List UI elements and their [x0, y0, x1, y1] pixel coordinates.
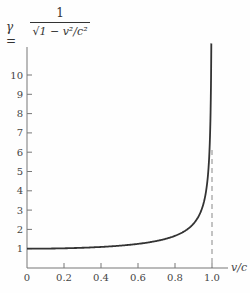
y-tick-label: 8 — [17, 108, 23, 119]
x-tick-label: 0 — [24, 272, 30, 283]
gamma-curve — [27, 43, 211, 248]
y-tick-label: 3 — [17, 205, 23, 216]
y-tick-label: 2 — [17, 224, 23, 235]
x-ticks: 00.20.40.60.81.0 — [24, 263, 220, 283]
x-tick-label: 0.2 — [56, 272, 72, 283]
gamma-chart: 12345678910 00.20.40.60.81.0 v/c — [0, 0, 250, 293]
x-axis-label: v/c — [231, 261, 247, 274]
axes — [27, 47, 228, 268]
x-tick-label: 0.6 — [130, 272, 146, 283]
y-tick-label: 4 — [17, 185, 23, 196]
y-tick-label: 5 — [17, 166, 23, 177]
y-ticks: 12345678910 — [10, 70, 32, 255]
x-tick-label: 1.0 — [204, 272, 220, 283]
y-tick-label: 10 — [10, 70, 23, 81]
y-tick-label: 6 — [17, 147, 23, 158]
x-tick-label: 0.4 — [93, 272, 109, 283]
y-tick-label: 9 — [17, 89, 23, 100]
x-tick-label: 0.8 — [167, 272, 183, 283]
y-tick-label: 1 — [17, 243, 23, 254]
y-tick-label: 7 — [17, 127, 23, 138]
